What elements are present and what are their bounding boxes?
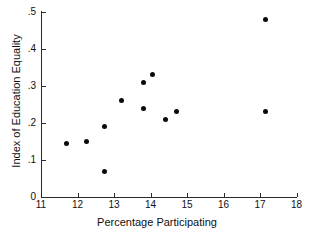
x-axis-line [41, 197, 297, 198]
data-point [119, 98, 124, 103]
data-point [174, 109, 179, 114]
x-tick-label: 12 [66, 200, 90, 210]
data-point [84, 139, 89, 144]
x-tick-label: 16 [212, 200, 236, 210]
data-point [141, 106, 146, 111]
data-point [150, 72, 155, 77]
plot-area [41, 12, 297, 197]
data-point [102, 124, 107, 129]
x-tick-label: 15 [175, 200, 199, 210]
x-tick-label: 11 [29, 200, 53, 210]
data-point [64, 141, 69, 146]
data-point [263, 17, 268, 22]
y-axis-title: Index of Education Equality [10, 16, 22, 186]
x-tick-label: 18 [285, 200, 309, 210]
x-tick-label: 17 [248, 200, 272, 210]
y-tick-mark [42, 197, 46, 198]
data-point [102, 169, 107, 174]
x-tick-mark [297, 193, 298, 197]
scatter-plot-figure: 0.1.2.3.4.5 1112131415161718 Percentage … [0, 0, 314, 239]
data-point [163, 117, 168, 122]
data-point [263, 109, 268, 114]
x-axis-title: Percentage Participating [0, 216, 314, 228]
data-point [141, 80, 146, 85]
x-tick-label: 13 [102, 200, 126, 210]
x-tick-label: 14 [139, 200, 163, 210]
